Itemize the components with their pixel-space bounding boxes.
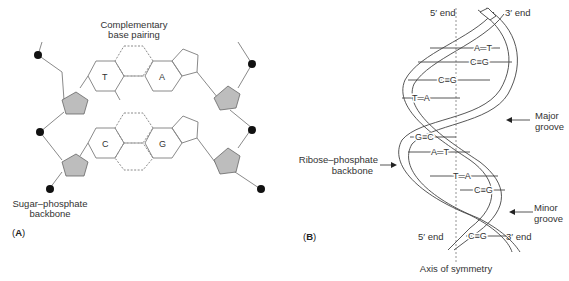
- base-pair-label: T═A: [453, 171, 471, 181]
- sugar-icon: [62, 92, 88, 114]
- major-groove-label-2: groove: [535, 121, 564, 132]
- base-pair-label: C≡G: [474, 185, 493, 195]
- base-pair-label: G≡C: [415, 132, 434, 142]
- arrow-right-icon: [391, 162, 397, 168]
- panel-b-helix: [380, 8, 533, 262]
- complementary-label-2: base pairing: [108, 29, 160, 40]
- minor-groove-label-1: Minor: [534, 202, 558, 213]
- base-pair-label: C≡G: [438, 75, 457, 85]
- ribose-phosphate-label-2: backbone: [332, 165, 373, 176]
- arrow-left-icon: [506, 117, 512, 123]
- base-pair-label: A═T: [474, 43, 492, 53]
- phosphate-icon: [36, 128, 44, 136]
- major-groove-label-1: Major: [535, 110, 559, 121]
- base-pair-label: C≡G: [468, 231, 487, 241]
- phosphate-icon: [46, 185, 54, 193]
- sugar-icon: [62, 154, 88, 176]
- sugar-icon: [214, 86, 240, 110]
- phosphate-icon: [34, 51, 42, 59]
- five-prime-end-bottom: 5′ end: [418, 231, 444, 242]
- three-prime-end-bottom: 3′ end: [506, 231, 532, 242]
- five-prime-end-top: 5′ end: [430, 7, 456, 18]
- base-a: A: [159, 72, 165, 82]
- base-pair-label: C≡G: [470, 57, 489, 67]
- minor-groove-label-2: groove: [534, 213, 563, 224]
- dna-structure-figure: T A C G Complementary base pairing Sugar…: [0, 0, 569, 281]
- base-pair-label: A═T: [431, 147, 449, 157]
- base-c: C: [102, 139, 109, 149]
- phosphate-icon: [248, 60, 256, 68]
- axis-of-symmetry-label: Axis of symmetry: [420, 263, 493, 274]
- arrow-left-icon: [509, 209, 515, 215]
- phosphate-icon: [248, 126, 256, 134]
- three-prime-end-top: 3′ end: [505, 7, 531, 18]
- arrow-icons: [391, 117, 515, 215]
- panel-b-label: (B): [303, 231, 316, 242]
- ribose-phosphate-label-1: Ribose–phosphate: [299, 154, 378, 165]
- base-t: T: [102, 72, 108, 82]
- sugar-phosphate-label-2: backbone: [29, 208, 70, 219]
- base-pair-label: T═A: [412, 93, 430, 103]
- base-g: G: [159, 139, 166, 149]
- panel-a-label: (A): [12, 227, 25, 238]
- phosphate-icon: [257, 185, 265, 193]
- sugar-icon: [214, 148, 240, 174]
